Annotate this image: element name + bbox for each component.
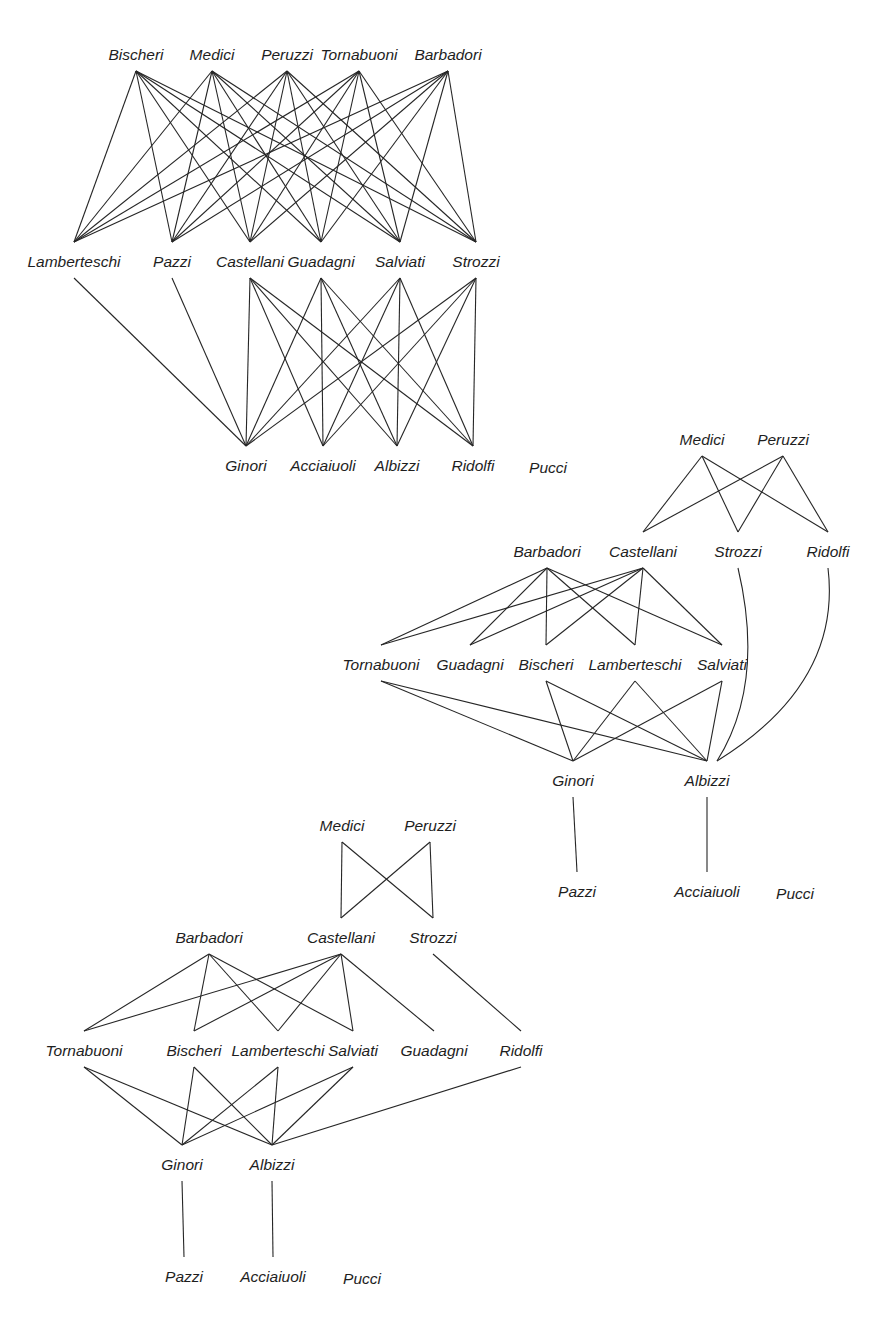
node-label-peruzzi: Peruzzi bbox=[404, 817, 456, 834]
node-label-salviati: Salviati bbox=[697, 656, 748, 673]
edge-bischeri_t-pazzi_m bbox=[136, 71, 172, 242]
node-label-pazzi: Pazzi bbox=[165, 1268, 203, 1285]
edge-lamberteschi-albizzi bbox=[635, 681, 707, 761]
edge-castellani_m-acciaiuoli_b bbox=[250, 278, 323, 446]
edge-medici-ridolfi bbox=[702, 456, 828, 532]
edge-lamberteschi-albizzi bbox=[272, 1067, 278, 1145]
edge-medici-castellani bbox=[341, 842, 342, 918]
node-label-barbadori_t: Barbadori bbox=[414, 46, 482, 63]
edge-ginori-pazzi bbox=[182, 1181, 184, 1257]
edge-medici-strozzi bbox=[342, 842, 433, 918]
node-label-pucci: Pucci bbox=[776, 885, 814, 902]
edge-tornabuoni-albizzi bbox=[84, 1067, 272, 1145]
node-label-medici: Medici bbox=[680, 431, 725, 448]
node-label-ridolfi: Ridolfi bbox=[806, 543, 850, 560]
edge-strozzi_m-albizzi_b bbox=[397, 278, 476, 446]
edge-barbadori_t-strozzi_m bbox=[448, 71, 476, 242]
edge-barbadori_t-pazzi_m bbox=[172, 71, 448, 242]
edge-salviati-ginori bbox=[182, 1067, 353, 1145]
edge-bischeri-albizzi bbox=[194, 1067, 272, 1145]
edge-lamberteschi-ginori bbox=[182, 1067, 278, 1145]
edge-tornabuoni-ginori bbox=[84, 1067, 182, 1145]
diagram-1-labels: BischeriMediciPeruzziTornabuoniBarbadori… bbox=[27, 46, 567, 476]
node-label-medici_t: Medici bbox=[190, 46, 235, 63]
node-label-pazzi: Pazzi bbox=[558, 883, 596, 900]
edge-castellani-tornabuoni bbox=[84, 954, 341, 1031]
node-label-acciaiuoli: Acciaiuoli bbox=[673, 883, 740, 900]
edge-peruzzi-castellani bbox=[341, 842, 430, 918]
edge-castellani-guadagni bbox=[470, 568, 643, 645]
edge-bischeri_t-castellani_m bbox=[136, 71, 250, 242]
edge-tornabuoni_t-salviati_m bbox=[359, 71, 400, 242]
node-label-ridolfi_b: Ridolfi bbox=[451, 457, 495, 474]
edge-barbadori_t-castellani_m bbox=[250, 71, 448, 242]
node-label-salviati_m: Salviati bbox=[375, 253, 426, 270]
node-label-bischeri: Bischeri bbox=[518, 656, 574, 673]
edge-peruzzi-ridolfi bbox=[783, 456, 828, 532]
edge-pazzi_m-ginori_b bbox=[172, 278, 246, 446]
edge-medici_t-salviati_m bbox=[212, 71, 400, 242]
edge-strozzi_m-ridolfi_b bbox=[473, 278, 476, 446]
node-label-peruzzi: Peruzzi bbox=[757, 431, 809, 448]
edge-barbadori-tornabuoni bbox=[381, 568, 547, 645]
node-label-bischeri: Bischeri bbox=[166, 1042, 222, 1059]
node-label-albizzi: Albizzi bbox=[684, 772, 730, 789]
edge-barbadori-bischeri bbox=[546, 568, 547, 645]
edge-ginori-pazzi bbox=[573, 797, 577, 872]
edge-tornabuoni_t-pazzi_m bbox=[172, 71, 359, 242]
diagram-3: MediciPeruzziBarbadoriCastellaniStrozziT… bbox=[46, 817, 544, 1287]
node-label-castellani: Castellani bbox=[609, 543, 678, 560]
edge-castellani_m-ginori_b bbox=[246, 278, 250, 446]
node-label-pucci_b: Pucci bbox=[529, 459, 567, 476]
node-label-castellani_m: Castellani bbox=[216, 253, 285, 270]
node-label-ginori: Ginori bbox=[161, 1156, 203, 1173]
edge-medici-castellani bbox=[643, 456, 702, 532]
node-label-guadagni: Guadagni bbox=[436, 656, 504, 673]
node-label-lamberteschi: Lamberteschi bbox=[588, 656, 682, 673]
node-label-guadagni_m: Guadagni bbox=[287, 253, 355, 270]
node-label-strozzi: Strozzi bbox=[409, 929, 457, 946]
edge-barbadori_t-lamberteschi_m bbox=[74, 71, 448, 242]
node-label-albizzi_b: Albizzi bbox=[374, 457, 420, 474]
edge-albizzi-acciaiuoli bbox=[272, 1181, 273, 1257]
node-label-acciaiuoli: Acciaiuoli bbox=[239, 1268, 306, 1285]
edge-salviati-ginori bbox=[573, 681, 722, 761]
node-label-pazzi_m: Pazzi bbox=[153, 253, 191, 270]
node-label-acciaiuoli_b: Acciaiuoli bbox=[289, 457, 356, 474]
edge-castellani-salviati bbox=[643, 568, 722, 645]
node-label-ginori_b: Ginori bbox=[225, 457, 267, 474]
node-label-medici: Medici bbox=[320, 817, 365, 834]
edge-salviati-albizzi bbox=[272, 1067, 353, 1145]
node-label-tornabuoni: Tornabuoni bbox=[46, 1042, 124, 1059]
edge-lamberteschi_m-ginori_b bbox=[74, 278, 246, 446]
node-label-lamberteschi: Lamberteschi bbox=[231, 1042, 325, 1059]
edge-peruzzi-strozzi bbox=[430, 842, 433, 918]
edge-peruzzi_t-pazzi_m bbox=[172, 71, 287, 242]
network-diagrams-canvas: BischeriMediciPeruzziTornabuoniBarbadori… bbox=[0, 0, 890, 1319]
edge-peruzzi-strozzi bbox=[738, 456, 783, 532]
edge-bischeri-ginori bbox=[182, 1067, 194, 1145]
node-label-tornabuoni: Tornabuoni bbox=[343, 656, 421, 673]
node-label-castellani: Castellani bbox=[307, 929, 376, 946]
edge-peruzzi-castellani bbox=[643, 456, 783, 532]
node-label-salviati: Salviati bbox=[328, 1042, 379, 1059]
edge-bischeri-albizzi bbox=[546, 681, 707, 761]
edge-medici_t-castellani_m bbox=[212, 71, 250, 242]
edge-barbadori-salviati bbox=[547, 568, 722, 645]
node-label-ridolfi: Ridolfi bbox=[499, 1042, 543, 1059]
node-label-strozzi: Strozzi bbox=[714, 543, 762, 560]
node-label-peruzzi_t: Peruzzi bbox=[261, 46, 313, 63]
edge-barbadori-tornabuoni bbox=[84, 954, 209, 1031]
edge-guadagni_m-albizzi_b bbox=[321, 278, 397, 446]
edge-medici_t-lamberteschi_m bbox=[74, 71, 212, 242]
diagram-1: BischeriMediciPeruzziTornabuoniBarbadori… bbox=[27, 46, 567, 476]
node-label-bischeri_t: Bischeri bbox=[108, 46, 164, 63]
node-label-tornabuoni_t: Tornabuoni bbox=[321, 46, 399, 63]
edge-castellani-tornabuoni bbox=[381, 568, 643, 645]
edge-bischeri_t-lamberteschi_m bbox=[74, 71, 136, 242]
node-label-pucci: Pucci bbox=[343, 1270, 381, 1287]
diagram-3-labels: MediciPeruzziBarbadoriCastellaniStrozziT… bbox=[46, 817, 544, 1287]
edge-castellani-salviati bbox=[341, 954, 353, 1031]
edge-castellani-guadagni bbox=[341, 954, 434, 1031]
edge-strozzi-ridolfi bbox=[433, 954, 521, 1031]
